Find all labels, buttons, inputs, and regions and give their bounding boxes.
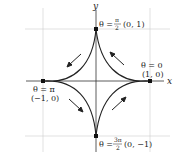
label-right: θ = 0 (1, 0) (141, 61, 164, 79)
point-left (41, 79, 45, 83)
svg-text:θ =: θ = (99, 140, 113, 149)
point-top (94, 27, 98, 31)
svg-text:2: 2 (116, 144, 120, 151)
label-left: θ = π (−1, 0) (31, 85, 59, 103)
svg-text:(1, 0): (1, 0) (142, 70, 164, 79)
x-axis-label: x (167, 76, 172, 86)
astroid-curve (43, 29, 150, 136)
svg-text:2: 2 (115, 24, 119, 31)
direction-arrows (67, 52, 126, 112)
y-axis-label: y (92, 1, 99, 11)
astroid-diagram: x y θ = π 2 (0, 1) (0, 0, 179, 157)
svg-text:π: π (115, 16, 119, 23)
point-right (148, 79, 152, 83)
arrow-up-left-icon (110, 52, 124, 65)
svg-text:(0, −1): (0, −1) (124, 140, 152, 149)
svg-text:θ = 0: θ = 0 (141, 61, 163, 70)
svg-text:(−1, 0): (−1, 0) (31, 94, 59, 103)
key-points (41, 27, 152, 138)
label-bottom: θ = 3π 2 (0, −1) (99, 136, 152, 151)
svg-text:θ =: θ = (99, 20, 113, 29)
arrow-down-left-icon (67, 54, 81, 67)
arrow-up-right-icon (112, 97, 126, 110)
svg-text:(0, 1): (0, 1) (123, 20, 145, 29)
point-bottom (94, 134, 98, 138)
svg-text:3π: 3π (114, 136, 122, 143)
arrow-down-right-icon (69, 99, 83, 112)
svg-text:θ = π: θ = π (33, 85, 55, 94)
